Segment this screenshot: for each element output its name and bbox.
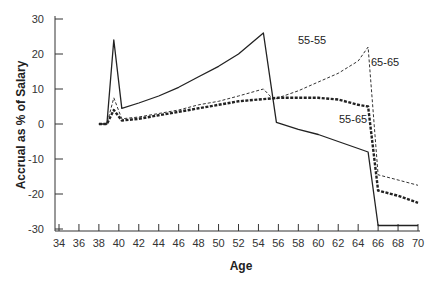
series-line-55-65 bbox=[99, 98, 418, 203]
x-tick-label: 38 bbox=[93, 237, 105, 249]
x-tick-label: 50 bbox=[212, 237, 224, 249]
x-tick-label: 40 bbox=[113, 237, 125, 249]
y-tick-label: 0 bbox=[38, 118, 44, 130]
x-tick-label: 36 bbox=[73, 237, 85, 249]
y-tick-label: 30 bbox=[32, 13, 44, 25]
y-tick-label: -30 bbox=[28, 223, 44, 235]
x-tick-label: 48 bbox=[192, 237, 204, 249]
x-tick-label: 66 bbox=[372, 237, 384, 249]
x-tick-label: 34 bbox=[53, 237, 65, 249]
y-tick-label: 20 bbox=[32, 48, 44, 60]
y-tick-label: -10 bbox=[28, 153, 44, 165]
x-tick-label: 64 bbox=[352, 237, 364, 249]
x-tick-label: 44 bbox=[153, 237, 165, 249]
x-tick-label: 56 bbox=[272, 237, 284, 249]
axes: 3020100-10-20-30343638404244464850525456… bbox=[28, 13, 424, 249]
series-label-55-55: 55-55 bbox=[298, 34, 326, 46]
x-tick-label: 70 bbox=[412, 237, 424, 249]
series-label-55-65: 55-65 bbox=[339, 113, 367, 125]
y-tick-label: 10 bbox=[32, 83, 44, 95]
x-tick-label: 46 bbox=[173, 237, 185, 249]
line-chart: 3020100-10-20-30343638404244464850525456… bbox=[0, 0, 437, 289]
x-tick-label: 60 bbox=[312, 237, 324, 249]
x-tick-label: 52 bbox=[232, 237, 244, 249]
x-tick-label: 62 bbox=[332, 237, 344, 249]
x-tick-label: 42 bbox=[133, 237, 145, 249]
x-tick-label: 58 bbox=[292, 237, 304, 249]
y-axis-label: Accrual as % of Salary bbox=[14, 60, 28, 189]
x-axis-label: Age bbox=[230, 259, 253, 273]
y-tick-label: -20 bbox=[28, 188, 44, 200]
x-tick-label: 68 bbox=[392, 237, 404, 249]
series-label-65-65: 65-65 bbox=[371, 56, 399, 68]
x-tick-label: 54 bbox=[252, 237, 264, 249]
